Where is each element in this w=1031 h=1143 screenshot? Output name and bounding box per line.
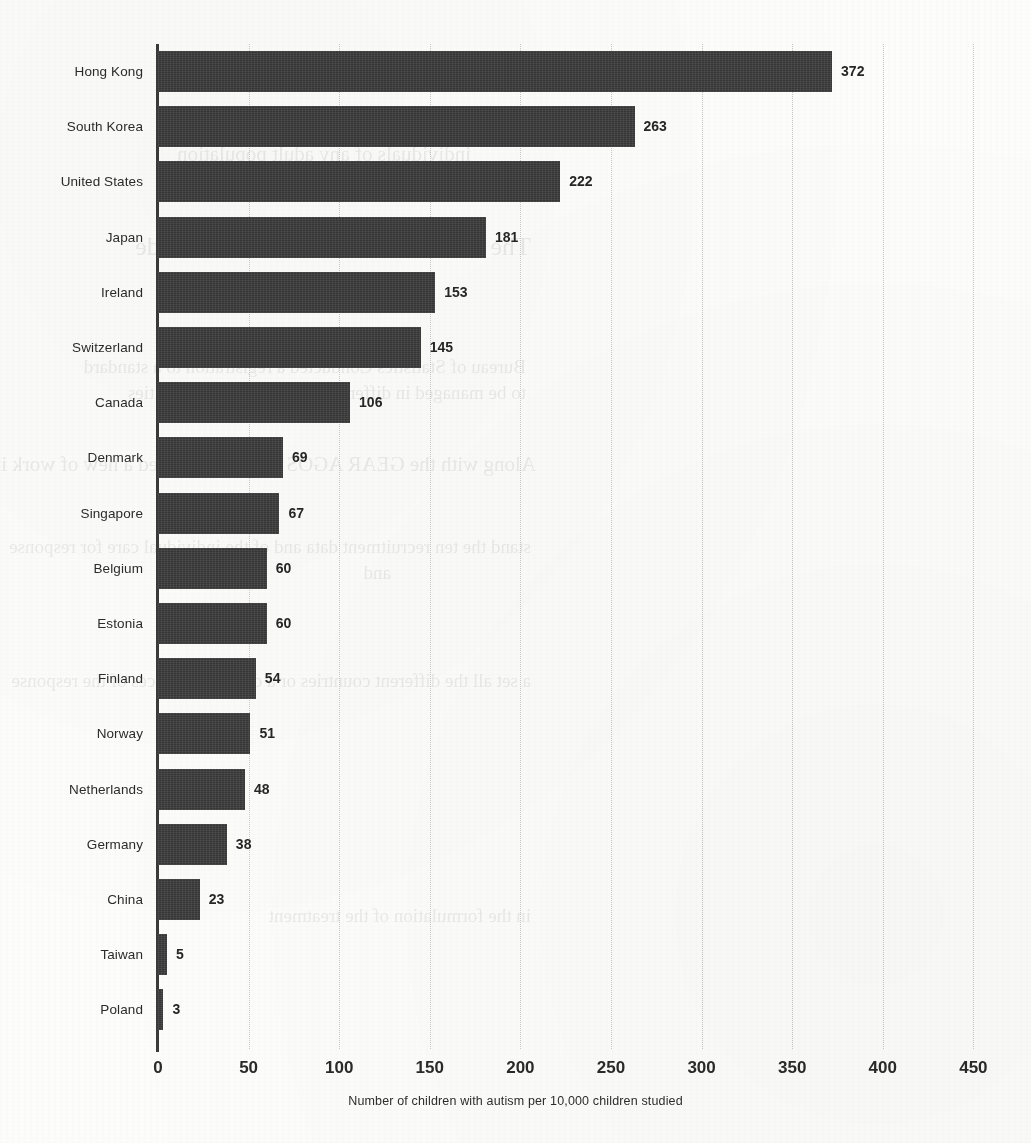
- bar: [158, 437, 283, 478]
- bar-row: Denmark69: [0, 430, 1031, 485]
- bar-row: Finland54: [0, 651, 1031, 706]
- bar: [158, 713, 250, 754]
- bar-value-label: 106: [359, 375, 382, 430]
- bar-value-label: 153: [444, 265, 467, 320]
- bar-value-label: 60: [276, 541, 292, 596]
- bar: [158, 769, 245, 810]
- bar-value-label: 222: [569, 154, 592, 209]
- x-axis-tick-label: 400: [869, 1058, 897, 1078]
- bar-row: South Korea263: [0, 99, 1031, 154]
- x-axis-tick-label: 150: [416, 1058, 444, 1078]
- bar-row: China23: [0, 872, 1031, 927]
- bar: [158, 327, 421, 368]
- bar-category-label: Belgium: [94, 541, 143, 596]
- x-axis-tick-label: 200: [506, 1058, 534, 1078]
- x-axis-tick-label: 300: [687, 1058, 715, 1078]
- bar-value-label: 60: [276, 596, 292, 651]
- bar-category-label: United States: [61, 154, 143, 209]
- bar-row: Belgium60: [0, 541, 1031, 596]
- bar: [158, 51, 832, 92]
- bar-row: United States222: [0, 154, 1031, 209]
- bar-category-label: Netherlands: [69, 762, 143, 817]
- x-axis-tick-label: 250: [597, 1058, 625, 1078]
- bar: [158, 548, 267, 589]
- bar-value-label: 5: [176, 927, 184, 982]
- x-axis-title: Number of children with autism per 10,00…: [0, 1094, 1031, 1108]
- bar-category-label: Ireland: [101, 265, 143, 320]
- bar: [158, 824, 227, 865]
- bar-value-label: 145: [430, 320, 453, 375]
- bar-category-label: Germany: [87, 817, 143, 872]
- bar-category-label: South Korea: [67, 99, 143, 154]
- x-axis-tick-label: 350: [778, 1058, 806, 1078]
- x-axis-tick-label: 100: [325, 1058, 353, 1078]
- bar-value-label: 54: [265, 651, 281, 706]
- bar-category-label: Denmark: [88, 430, 143, 485]
- bar-category-label: Taiwan: [100, 927, 143, 982]
- bar-row: Switzerland145: [0, 320, 1031, 375]
- bar-category-label: China: [107, 872, 143, 927]
- bar-row: Germany38: [0, 817, 1031, 872]
- bar-value-label: 181: [495, 210, 518, 265]
- bar: [158, 382, 350, 423]
- bar-value-label: 69: [292, 430, 308, 485]
- bar: [158, 989, 163, 1030]
- bar: [158, 879, 200, 920]
- bar-row: Netherlands48: [0, 762, 1031, 817]
- bar-value-label: 51: [259, 706, 275, 761]
- x-axis-tick-label: 0: [153, 1058, 162, 1078]
- bar-row: Japan181: [0, 210, 1031, 265]
- chart-page: people of different ages, and to assessi…: [0, 0, 1031, 1143]
- bar-category-label: Japan: [106, 210, 143, 265]
- bar-row: Taiwan5: [0, 927, 1031, 982]
- x-axis-tick-label: 450: [959, 1058, 987, 1078]
- bar-row: Ireland153: [0, 265, 1031, 320]
- bar: [158, 217, 486, 258]
- bar-row: Canada106: [0, 375, 1031, 430]
- bar-category-label: Canada: [95, 375, 143, 430]
- bar-row: Poland3: [0, 982, 1031, 1037]
- bar-category-label: Switzerland: [72, 320, 143, 375]
- bar-row: Singapore67: [0, 486, 1031, 541]
- x-axis-tick-label: 50: [239, 1058, 258, 1078]
- bar-row: Hong Kong372: [0, 44, 1031, 99]
- bar-row: Estonia60: [0, 596, 1031, 651]
- bar-category-label: Hong Kong: [75, 44, 143, 99]
- bar: [158, 658, 256, 699]
- bar: [158, 934, 167, 975]
- bar-value-label: 372: [841, 44, 864, 99]
- bar-value-label: 263: [644, 99, 667, 154]
- bar-value-label: 23: [209, 872, 225, 927]
- bar-category-label: Norway: [97, 706, 143, 761]
- bar-category-label: Finland: [98, 651, 143, 706]
- bar-value-label: 3: [172, 982, 180, 1037]
- bar: [158, 603, 267, 644]
- bar: [158, 161, 560, 202]
- bar: [158, 272, 435, 313]
- horizontal-bar-chart: Hong Kong372South Korea263United States2…: [0, 0, 1031, 1143]
- bar-row: Norway51: [0, 706, 1031, 761]
- bar-category-label: Estonia: [97, 596, 143, 651]
- bar-value-label: 48: [254, 762, 270, 817]
- bar-category-label: Singapore: [81, 486, 143, 541]
- bar-value-label: 38: [236, 817, 252, 872]
- bar: [158, 106, 635, 147]
- bar: [158, 493, 279, 534]
- bar-category-label: Poland: [100, 982, 143, 1037]
- bar-value-label: 67: [288, 486, 304, 541]
